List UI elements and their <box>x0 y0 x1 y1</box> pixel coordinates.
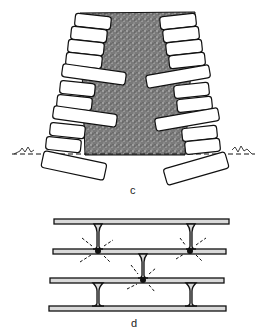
mortar-courses <box>49 219 229 311</box>
figure-c-wall-section <box>0 0 267 215</box>
figure-d-brick-courses <box>0 200 267 320</box>
figure-c-label: c <box>130 184 136 196</box>
figure-d-label: d <box>131 317 137 329</box>
vertical-joints <box>92 224 197 306</box>
